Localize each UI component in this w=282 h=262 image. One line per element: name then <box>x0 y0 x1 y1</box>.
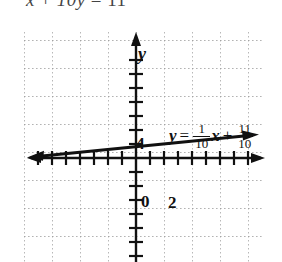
line-equation-plus: + <box>223 126 233 146</box>
intercept-numerator: 11 <box>236 122 253 136</box>
intercept-denominator: 10 <box>236 137 253 151</box>
problem-equation-operator: + <box>40 0 51 10</box>
problem-equation: x + 10y = 11 <box>0 0 282 11</box>
line-equation-annotation: y = 1 10 x + 11 10 <box>169 122 254 151</box>
origin-label: 0 <box>141 193 150 210</box>
problem-equation-y-term: 10y <box>57 0 86 10</box>
slope-variable: x <box>211 126 220 146</box>
graph-screenshot: x + 10y = 11 <box>0 0 282 262</box>
slope-fraction: 1 10 <box>193 122 210 151</box>
slope-numerator: 1 <box>196 122 207 136</box>
y-tick-label-4: 4 <box>136 135 145 152</box>
problem-equation-equals: = <box>91 0 102 10</box>
coordinate-plane: y x 4 0 2 y = 1 10 x + 11 10 <box>21 32 265 262</box>
intercept-fraction: 11 10 <box>236 122 253 151</box>
y-axis-label: y <box>138 45 146 63</box>
line-equation-equals: = <box>180 126 190 146</box>
slope-denominator: 10 <box>193 137 210 151</box>
x-tick-label-2: 2 <box>168 194 177 211</box>
problem-equation-constant: 11 <box>107 0 126 10</box>
line-equation-lhs: y <box>169 126 177 146</box>
problem-equation-x-term: x <box>26 0 35 10</box>
